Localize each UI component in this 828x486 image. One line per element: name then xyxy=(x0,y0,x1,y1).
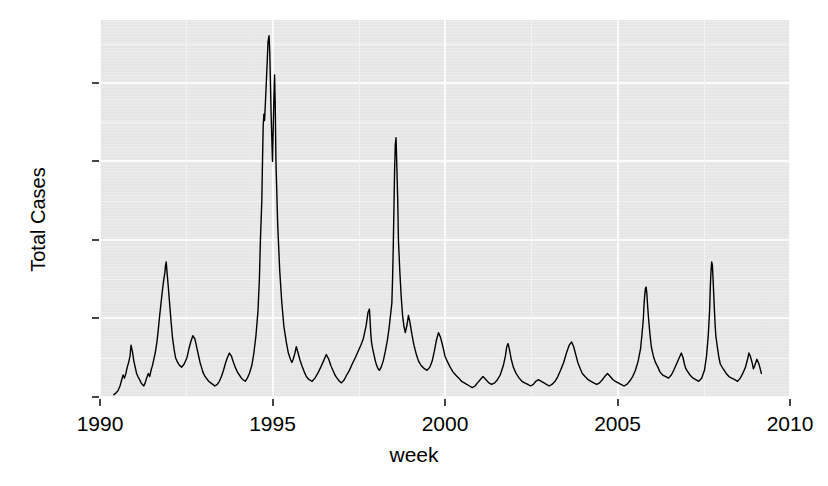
x-tick-mark xyxy=(789,399,791,406)
y-tick-mark xyxy=(92,160,99,162)
x-tick-mark xyxy=(272,399,274,406)
x-tick-label: 1990 xyxy=(77,413,124,434)
y-axis-title: Total Cases xyxy=(27,167,50,272)
x-tick-label: 2010 xyxy=(767,413,814,434)
x-tick-mark xyxy=(617,399,619,406)
x-tick-mark xyxy=(99,399,101,406)
series-line xyxy=(100,20,790,397)
y-tick-mark xyxy=(92,82,99,84)
y-tick-mark xyxy=(92,317,99,319)
plot-panel xyxy=(100,20,790,397)
x-tick-label: 2000 xyxy=(422,413,469,434)
y-tick-mark xyxy=(92,239,99,241)
x-tick-mark xyxy=(444,399,446,406)
y-tick-mark xyxy=(92,396,99,398)
x-tick-label: 2005 xyxy=(594,413,641,434)
x-tick-label: 1995 xyxy=(249,413,296,434)
x-axis-title: week xyxy=(0,443,828,467)
chart-container: 0100200300400 Total Cases 19901995200020… xyxy=(0,0,828,486)
